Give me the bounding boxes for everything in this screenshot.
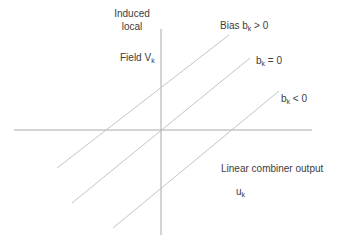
x-axis-symbol-subscript: k [242, 191, 246, 198]
y-axis-label-line-1: Induced [108, 8, 156, 20]
x-axis-symbol: uk [236, 186, 245, 198]
bias-negative-label: bk < 0 [281, 93, 307, 105]
bias-affine-diagram: Induced local Field Vk Bias bk > 0 bk = … [0, 0, 337, 248]
bias-zero-label-suffix: = 0 [265, 55, 282, 66]
bias-positive-label: Bias bk > 0 [220, 20, 268, 32]
bias-zero-label: bk = 0 [256, 55, 282, 67]
y-axis-field-label: Field Vk [120, 52, 155, 64]
y-axis-field-text: Field V [120, 52, 151, 63]
x-axis-label: Linear combiner output [221, 163, 323, 175]
y-axis-field-subscript: k [151, 57, 155, 64]
bias-negative-label-suffix: < 0 [290, 93, 307, 104]
diagram-plot-area [0, 0, 337, 248]
bias-negative-line [113, 91, 279, 228]
y-axis-label-line-2: local [108, 21, 156, 33]
bias-positive-label-suffix: > 0 [251, 20, 268, 31]
bias-positive-label-prefix: Bias b [220, 20, 248, 31]
